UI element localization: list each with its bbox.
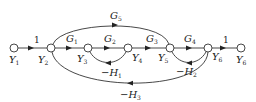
node-label-y6: Y6 [212, 51, 223, 63]
arrow-icon [186, 61, 192, 66]
node-label-y3: Y3 [77, 53, 88, 65]
gain-h1: −H1 [101, 67, 122, 79]
node-label-y5: Y5 [158, 52, 169, 64]
gain-g4: G4 [184, 33, 196, 45]
node-label-y4: Y4 [132, 52, 143, 64]
arrow-icon [104, 46, 110, 51]
arrow-icon [28, 46, 34, 51]
arrow-icon [105, 61, 111, 66]
node-y6 [204, 44, 212, 52]
arrow-icon [66, 46, 72, 51]
node-y3 [84, 44, 92, 52]
gain-1-b: 1 [223, 35, 229, 45]
gain-h3: −H3 [120, 89, 141, 101]
arrow-icon [127, 81, 133, 86]
gain-g3: G3 [146, 33, 158, 45]
node-y6-out [237, 44, 245, 52]
gain-g2: G2 [104, 33, 116, 45]
signal-flow-graph: 1 1 G1 G2 G3 G4 G5 −H1 −H2 −H3 Y1 Y2 Y3 … [0, 0, 256, 102]
node-y2 [47, 44, 55, 52]
node-y5 [166, 44, 174, 52]
node-y4 [124, 44, 132, 52]
gain-1-a: 1 [34, 35, 40, 45]
gain-h2: −H2 [176, 66, 197, 78]
gain-g5: G5 [110, 10, 122, 22]
node-label-y1: Y1 [9, 54, 19, 66]
node-label-y2: Y2 [38, 54, 49, 66]
arrow-icon [145, 46, 151, 51]
gain-g1: G1 [66, 33, 78, 45]
arrow-icon [186, 46, 192, 51]
branch-h2 [172, 52, 206, 63]
node-y1 [10, 44, 18, 52]
arrow-icon [220, 46, 226, 51]
arrow-icon [112, 23, 118, 28]
branch-h1 [90, 52, 126, 63]
node-label-y6-out: Y6 [236, 54, 247, 66]
